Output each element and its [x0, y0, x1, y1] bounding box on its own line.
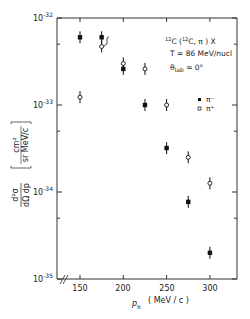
pi-minus-point [186, 196, 190, 208]
svg-text:π⁺: π⁺ [206, 104, 215, 113]
pi-plus-point [186, 151, 190, 163]
legend: π⁻ π⁺ [198, 95, 215, 113]
svg-text:200: 200 [115, 284, 130, 293]
svg-text:θlab = 0°: θlab = 0° [170, 63, 204, 73]
annotation-bracket [104, 37, 109, 46]
pi-plus-point [100, 41, 104, 53]
pi-plus-point [165, 99, 169, 111]
pi-plus-point [143, 63, 147, 75]
svg-text:150: 150 [72, 284, 87, 293]
y-axis-label: d²σ dΩ dp cm² sr MeV/c [11, 122, 31, 207]
svg-text:d²σ: d²σ [11, 188, 20, 201]
pi-plus-point [78, 91, 82, 103]
svg-text:10-35: 10-35 [33, 272, 53, 284]
svg-text:( MeV / c ): ( MeV / c ) [148, 296, 189, 305]
x-tick-labels: 150 200 250 300 [72, 284, 217, 293]
reaction-annotation: 12C (12C, π ) X T = 86 MeV/nucl θlab = 0… [165, 36, 232, 73]
svg-text:10-33: 10-33 [33, 98, 53, 110]
legend-marker-open-circle [198, 107, 201, 110]
svg-text:300: 300 [202, 284, 217, 293]
svg-text:10-34: 10-34 [33, 185, 53, 197]
svg-text:T = 86 MeV/nucl: T = 86 MeV/nucl [169, 49, 232, 58]
pi-minus-point [164, 142, 168, 154]
y-tick-labels: 10-32 10-33 10-34 10-35 [33, 11, 53, 284]
chart: 10-32 10-33 10-34 10-35 150 200 250 300 … [0, 0, 250, 319]
pi-minus-point [78, 31, 82, 43]
svg-text:dΩ dp: dΩ dp [22, 183, 31, 207]
pi-minus-point [208, 247, 212, 259]
svg-text:pπ: pπ [131, 299, 141, 310]
svg-text:10-32: 10-32 [33, 11, 53, 23]
legend-marker-filled-square [198, 98, 201, 101]
svg-text:cm²: cm² [12, 137, 21, 152]
svg-text:12C (12C, π ) X: 12C (12C, π ) X [165, 36, 216, 46]
pi-minus-point [143, 99, 147, 111]
svg-text:sr MeV/c: sr MeV/c [21, 128, 30, 162]
svg-text:250: 250 [159, 284, 174, 293]
pi-plus-point [208, 177, 212, 189]
x-axis-label: pπ ( MeV / c ) [131, 296, 189, 310]
svg-text:π⁻: π⁻ [206, 95, 215, 104]
